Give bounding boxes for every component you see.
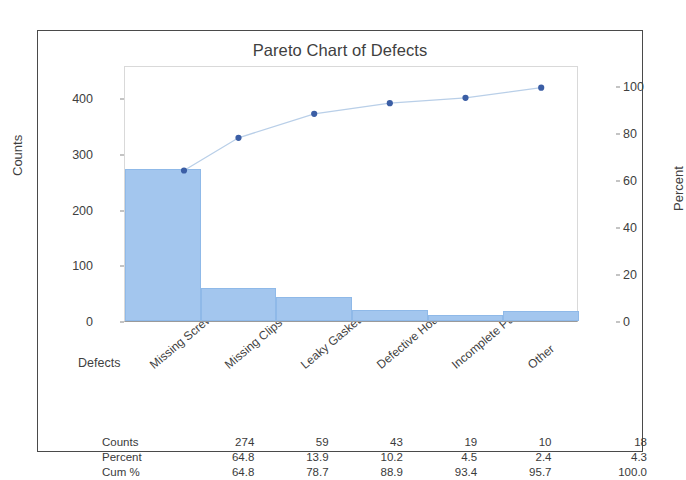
cumulative-line-path: [184, 88, 541, 171]
percent-tick-label-20: 20: [623, 268, 663, 282]
table-cell: 100.0: [551, 465, 647, 480]
table-cell: 95.7: [477, 465, 551, 480]
percent-tick-mark-80: [616, 133, 620, 134]
percent-tick-mark-20: [616, 274, 620, 275]
cum-marker-defective-housi: [387, 100, 393, 106]
table-row: Cum %64.878.788.993.495.7100.0: [102, 465, 647, 480]
table-cell: 43: [329, 435, 403, 450]
category-label-missing-clips: Missing Clips: [222, 316, 285, 372]
cum-marker-other: [538, 85, 544, 91]
table-cell: 78.7: [254, 465, 328, 480]
percent-tick-label-40: 40: [623, 221, 663, 235]
page-title: Pareto Chart of Defects: [38, 41, 642, 60]
bar-missing-clips: [201, 288, 277, 321]
table-cell: 18: [551, 435, 647, 450]
table-cell: 274: [180, 435, 254, 450]
percent-tick-label-80: 80: [623, 127, 663, 141]
table-cell: 88.9: [329, 465, 403, 480]
percent-tick-mark-60: [616, 180, 620, 181]
y-tick-label-100: 100: [33, 259, 93, 273]
percent-tick-label-100: 100: [623, 80, 663, 94]
table-cell: 64.8: [180, 450, 254, 465]
y-tick-label-300: 300: [33, 148, 93, 162]
table-row: Percent64.813.910.24.52.44.3: [102, 450, 647, 465]
table-row-header: Percent: [102, 450, 180, 465]
plot-area: [124, 66, 578, 322]
x-axis-title: Defects: [78, 356, 120, 370]
percent-tick-mark-0: [616, 322, 620, 323]
cum-marker-leaky-gasket: [311, 111, 317, 117]
table-cell: 64.8: [180, 465, 254, 480]
cum-marker-missing-clips: [235, 135, 241, 141]
table-cell: 10: [477, 435, 551, 450]
bar-incomplete-part: [428, 315, 504, 321]
percent-tick-mark-40: [616, 227, 620, 228]
percent-tick-mark-100: [616, 86, 620, 87]
data-summary-table: Counts2745943191018Percent64.813.910.24.…: [102, 435, 647, 480]
y-tick-label-200: 200: [33, 204, 93, 218]
figure-frame: Pareto Chart of Defects Counts Percent D…: [37, 30, 643, 452]
table-cell: 10.2: [329, 450, 403, 465]
category-label-leaky-gasket: Leaky Gasket: [298, 314, 363, 372]
table-cell: 2.4: [477, 450, 551, 465]
category-label-other: Other: [525, 342, 557, 372]
table-cell: 19: [403, 435, 477, 450]
percent-tick-label-0: 0: [623, 315, 663, 329]
table-cell: 59: [254, 435, 328, 450]
bar-defective-housi: [352, 310, 428, 321]
cum-marker-incomplete-part: [462, 95, 468, 101]
table-cell: 93.4: [403, 465, 477, 480]
table-cell: 4.5: [403, 450, 477, 465]
bar-leaky-gasket: [276, 297, 352, 321]
table-row-header: Cum %: [102, 465, 180, 480]
table-row: Counts2745943191018: [102, 435, 647, 450]
table-row-header: Counts: [102, 435, 180, 450]
y-axis-left-title: Counts: [10, 135, 25, 176]
y-tick-label-0: 0: [33, 315, 93, 329]
bar-other: [503, 311, 579, 321]
table-cell: 4.3: [551, 450, 647, 465]
percent-tick-label-60: 60: [623, 174, 663, 188]
bar-missing-screws: [125, 169, 201, 321]
y-axis-right-title: Percent: [671, 166, 686, 211]
y-tick-label-400: 400: [33, 92, 93, 106]
table-cell: 13.9: [254, 450, 328, 465]
